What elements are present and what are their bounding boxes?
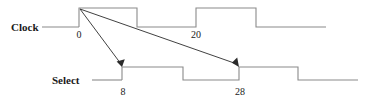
signal-select: Select [52, 67, 358, 86]
arrow-clock-to-select-8 [80, 9, 125, 67]
timing-diagram-canvas: Clock Select 0 20 8 28 [0, 0, 375, 101]
arrow-head-icon [232, 58, 239, 67]
arrow-clock-to-select-28 [80, 9, 239, 67]
clock-waveform [79, 8, 326, 27]
clock-label: Clock [11, 21, 39, 33]
annotation-arrow-group [80, 9, 239, 67]
tick-label-20: 20 [191, 29, 201, 40]
tick-label-0: 0 [77, 29, 82, 40]
arrow-line [80, 9, 237, 64]
select-label: Select [52, 74, 80, 86]
tick-label-8: 8 [121, 86, 126, 97]
tick-label-group: 0 20 8 28 [77, 29, 246, 97]
tick-label-28: 28 [235, 86, 245, 97]
select-waveform [122, 67, 358, 80]
arrow-line [80, 9, 121, 64]
timing-diagram: Clock Select 0 20 8 28 [0, 0, 375, 101]
signal-clock: Clock [11, 8, 326, 33]
